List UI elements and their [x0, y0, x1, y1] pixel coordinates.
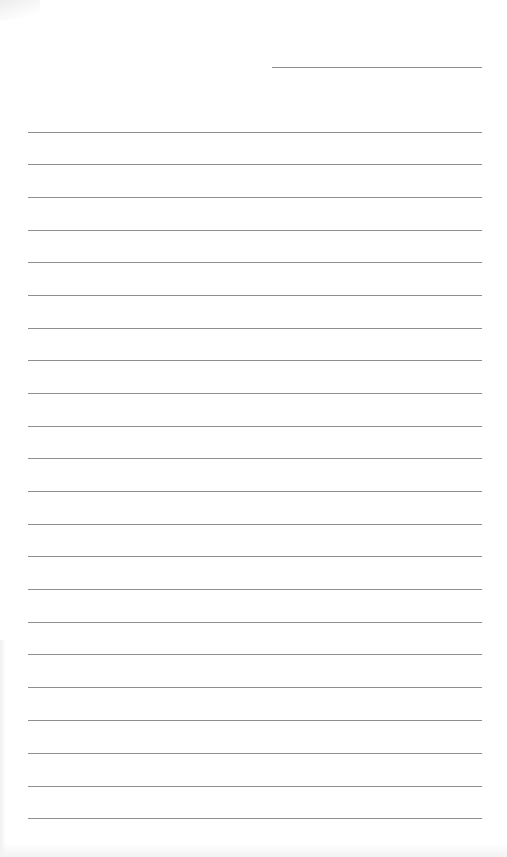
page-bottom-shadow — [0, 843, 507, 857]
ruled-line — [28, 720, 482, 721]
ruled-line — [28, 687, 482, 688]
page-corner-shadow — [0, 0, 40, 20]
ruled-line — [28, 230, 482, 231]
ruled-line — [28, 360, 482, 361]
ruled-line — [28, 556, 482, 557]
page-edge-shadow — [0, 640, 6, 857]
ruled-line — [28, 328, 482, 329]
ruled-line — [28, 262, 482, 263]
ruled-line — [28, 426, 482, 427]
ruled-line — [28, 132, 482, 133]
ruled-line — [28, 818, 482, 819]
lined-paper-page — [0, 0, 507, 857]
ruled-line — [28, 197, 482, 198]
ruled-line — [28, 295, 482, 296]
ruled-line — [28, 589, 482, 590]
ruled-line — [28, 654, 482, 655]
ruled-line — [28, 622, 482, 623]
ruled-line — [28, 164, 482, 165]
ruled-line — [28, 491, 482, 492]
ruled-line — [28, 524, 482, 525]
ruled-line — [28, 458, 482, 459]
header-line — [272, 67, 482, 68]
ruled-line — [28, 393, 482, 394]
ruled-line — [28, 753, 482, 754]
ruled-line — [28, 786, 482, 787]
